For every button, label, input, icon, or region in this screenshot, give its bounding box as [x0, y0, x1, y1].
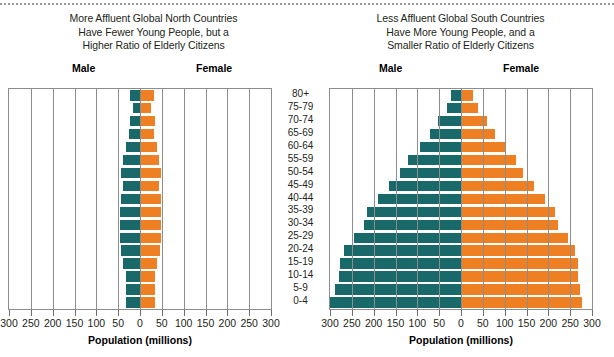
tick-label: 0 — [458, 317, 464, 329]
age-group-axis: 80+75-7970-7465-6960-6455-5950-5445-4940… — [272, 88, 329, 310]
gridline — [53, 89, 54, 309]
bar-female — [140, 297, 155, 307]
bar-female — [140, 207, 161, 217]
bar-male — [120, 233, 140, 243]
male-label-left: Male — [72, 62, 95, 74]
bar-male — [451, 90, 461, 100]
bar-female — [461, 233, 568, 243]
bar-female — [461, 245, 575, 255]
bar-female — [461, 129, 495, 139]
panel-title-line-2: Have More Young People, and a — [307, 26, 614, 40]
age-group-label: 20-24 — [272, 243, 329, 254]
tick-mark — [548, 310, 549, 316]
tick-label: 100 — [409, 317, 427, 329]
bar-male — [123, 181, 140, 191]
bar-female — [461, 181, 534, 191]
sex-legend-row-left: Male Female — [0, 62, 307, 78]
female-label-left: Female — [196, 62, 232, 74]
age-group-label: 55-59 — [272, 153, 329, 164]
bar-female — [461, 194, 545, 204]
male-label-right: Male — [379, 62, 402, 74]
x-axis-ticks-global-south — [329, 310, 593, 317]
bar-male — [420, 142, 461, 152]
bar-male — [367, 207, 461, 217]
age-group-label: 25-29 — [272, 230, 329, 241]
gridline — [548, 89, 549, 309]
tick-mark — [352, 310, 353, 316]
tick-label: 300 — [321, 317, 339, 329]
bar-male — [126, 297, 140, 307]
tick-label: 150 — [197, 317, 215, 329]
tick-label: 200 — [219, 317, 237, 329]
gridline — [184, 89, 185, 309]
gridline — [118, 89, 119, 309]
age-group-label: 15-19 — [272, 256, 329, 267]
age-group-label: 50-54 — [272, 166, 329, 177]
bar-female — [140, 284, 155, 294]
tick-mark — [417, 310, 418, 316]
bar-male — [400, 168, 461, 178]
panel-title-global-north: More Affluent Global North Countries Hav… — [0, 12, 307, 53]
bar-male — [123, 155, 140, 165]
tick-mark — [439, 310, 440, 316]
bar-male — [408, 155, 461, 165]
bar-female — [461, 168, 523, 178]
gridline — [162, 89, 163, 309]
gridline — [396, 89, 397, 309]
tick-mark — [31, 310, 32, 316]
bar-female — [140, 258, 157, 268]
tick-label: 100 — [496, 317, 514, 329]
x-axis-ticks-global-north — [8, 310, 272, 317]
gridline — [227, 89, 228, 309]
tick-label: 200 — [540, 317, 558, 329]
bar-female — [140, 155, 159, 165]
sex-legend-row-right: Male Female — [307, 62, 614, 78]
gridline — [206, 89, 207, 309]
bar-male — [354, 233, 461, 243]
bar-male — [126, 271, 140, 281]
gridline — [483, 89, 484, 309]
gridline — [461, 89, 462, 309]
panel-title-line-1: More Affluent Global North Countries — [0, 12, 307, 26]
tick-mark — [53, 310, 54, 316]
tick-label: 200 — [44, 317, 62, 329]
bar-male — [364, 220, 461, 230]
tick-label: 150 — [66, 317, 84, 329]
tick-mark — [483, 310, 484, 316]
gridline — [570, 89, 571, 309]
tick-label: 100 — [88, 317, 106, 329]
bar-female — [140, 245, 160, 255]
bar-male — [120, 207, 140, 217]
bar-female — [140, 142, 157, 152]
bar-male — [378, 194, 461, 204]
x-axis-title-global-north: Population (millions) — [8, 334, 272, 346]
tick-mark — [227, 310, 228, 316]
tick-label: 250 — [22, 317, 40, 329]
panel-title-line-1: Less Affluent Global South Countries — [307, 12, 614, 26]
age-group-label: 45-49 — [272, 179, 329, 190]
tick-label: 50 — [112, 317, 124, 329]
tick-mark — [75, 310, 76, 316]
gridline — [249, 89, 250, 309]
bar-male — [126, 142, 140, 152]
bar-male — [133, 103, 140, 113]
bar-female — [140, 90, 154, 100]
tick-label: 50 — [433, 317, 445, 329]
age-group-label: 80+ — [272, 88, 329, 99]
population-pyramid-figure: More Affluent Global North Countries Hav… — [0, 0, 614, 357]
tick-label: 50 — [156, 317, 168, 329]
age-group-label: 40-44 — [272, 192, 329, 203]
gridline — [75, 89, 76, 309]
tick-label: 250 — [240, 317, 258, 329]
gridline — [140, 89, 141, 309]
age-group-label: 75-79 — [272, 101, 329, 112]
x-axis-ticklabels-global-north: 30025020015010050050100150200250300 — [8, 317, 272, 331]
tick-label: 50 — [477, 317, 489, 329]
age-group-label: 60-64 — [272, 140, 329, 151]
gridline — [352, 89, 353, 309]
bar-female — [140, 181, 159, 191]
bar-female — [461, 155, 516, 165]
tick-mark — [396, 310, 397, 316]
bar-male — [121, 168, 140, 178]
bar-female — [140, 194, 161, 204]
